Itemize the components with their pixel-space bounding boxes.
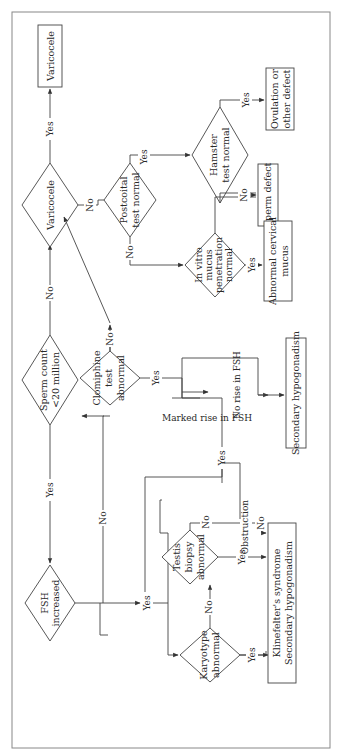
edge-label-yes: Yes [247,647,257,663]
node-text: Postcoital [118,176,129,223]
edge-label-no: No [98,511,108,524]
edge-label-no: No [45,286,55,299]
node-text: Ovulation or [269,69,280,129]
node-text: Sperm count [38,349,49,411]
edge-label-no: No [85,198,95,211]
varicocele-decision: Varicocele [22,163,78,247]
node-text: test normal [220,127,231,182]
edge-label-yes: Yes [217,450,227,466]
edge-label-yes: Yes [142,595,152,611]
no-rise-label: No rise in FSH [232,351,242,419]
edge-label-yes: Yes [241,92,251,108]
node-text: Abnormal cervical [267,217,278,306]
edge-label-yes: Yes [45,121,55,137]
edge-label-no: No [105,332,115,345]
node-text: Secondary hypogonadism [290,331,301,455]
node-text: biopsy [183,541,194,573]
karyotype-decision: Karyotype abnormal [180,628,240,682]
edge-label-no: No [239,188,249,201]
node-text: abnormal [210,632,221,678]
node-text: <20 million [50,352,61,408]
edge-label-yes: Yes [45,482,55,498]
node-text: normal [223,248,234,282]
node-text: Varicocele [45,180,56,231]
edge-label-yes: Yes [247,257,257,273]
flowchart-page: FSH increased Yes Sperm count <20 millio… [0,0,359,753]
secondary-hypogonadism-box: Secondary hypogonadism [286,331,306,455]
obstruction-label: Obstruction [240,500,250,554]
edge-label-no: No [256,516,266,529]
node-text: increased [50,580,61,627]
node-text: Klinefelter's syndrome [271,548,282,657]
abnormal-cervical-mucus-box: Abnormal cervical mucus [264,217,292,306]
flowchart-canvas: FSH increased Yes Sperm count <20 millio… [0,0,359,753]
node-text: Karyotype [198,630,209,680]
node-text: Varicocele [45,31,56,82]
klinefelter-hypogonadism-box: Klinefelter's syndrome Secondary hypogon… [268,523,296,683]
varicocele-outcome-box: Varicocele [38,25,62,87]
node-text: mucus [279,245,290,277]
ovulation-defect-box: Ovulation or other defect [266,68,294,130]
node-text: Secondary hypogonadism [283,541,294,665]
testis-biopsy-decision: Testis biopsy abnormal [162,530,218,584]
node-text: Hamster [208,134,219,176]
fsh-increased-decision: FSH increased [25,565,75,641]
node-text: FSH [39,592,50,613]
postcoital-decision: Postcoital test normal [104,163,156,237]
edge-label-no: No [125,245,135,258]
clomiphine-test-decision: Clomiphine test abnormal [80,350,140,405]
in-vitro-mucus-decision: In vitro mucus penetration normal [185,233,245,297]
node-text: test normal [130,172,141,227]
node-text: other defect [281,69,292,128]
sperm-count-decision: Sperm count <20 million [22,335,78,425]
edge-label-yes: Yes [151,370,161,386]
edge-label-no: No [201,515,211,528]
edge-label-yes: Yes [139,149,149,165]
node-text: Clomiphine [91,350,102,405]
node-text: abnormal [195,534,206,580]
node-text: abnormal [115,355,126,401]
edge-label-no: No [204,600,214,613]
node-text: Testis [171,543,182,571]
node-text: test [103,369,114,387]
